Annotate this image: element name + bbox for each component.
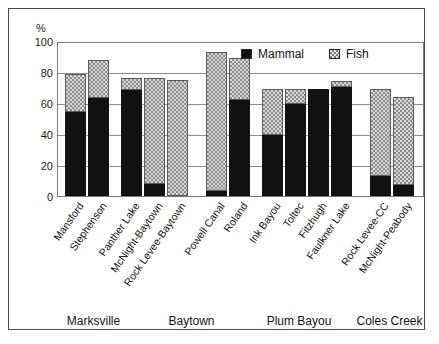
segment-fish bbox=[285, 89, 306, 104]
y-tick-60: 60 bbox=[15, 99, 53, 109]
segment-mammal bbox=[285, 104, 306, 196]
segment-mammal bbox=[370, 176, 391, 196]
group-label-plum-bayou: Plum Bayou bbox=[244, 314, 354, 328]
mammal-swatch-icon bbox=[241, 49, 252, 59]
segment-mammal bbox=[121, 90, 142, 196]
y-tick-100: 100 bbox=[15, 37, 53, 47]
legend-label-mammal: Mammal bbox=[258, 47, 304, 61]
bar-rock-levee-baytown[interactable] bbox=[167, 43, 188, 196]
group-label-coles-creek: Coles Creek bbox=[354, 314, 425, 328]
bar-mcnight-baytown[interactable] bbox=[144, 43, 165, 196]
legend-label-fish: Fish bbox=[346, 47, 369, 61]
group-label-baytown: Baytown bbox=[139, 314, 244, 328]
segment-mammal bbox=[206, 191, 227, 196]
bar-faulkner-lake[interactable] bbox=[331, 43, 352, 196]
segment-mammal bbox=[308, 89, 329, 196]
segment-fish bbox=[370, 89, 391, 176]
chart-frame: % 100 80 60 40 20 0 Mammal Fish bbox=[8, 8, 425, 330]
segment-fish bbox=[167, 80, 188, 196]
chart-page: % 100 80 60 40 20 0 Mammal Fish bbox=[0, 0, 439, 344]
segment-mammal bbox=[262, 135, 283, 196]
y-tick-80: 80 bbox=[15, 68, 53, 78]
bar-panther-lake[interactable] bbox=[121, 43, 142, 196]
segment-fish bbox=[331, 81, 352, 87]
segment-mammal bbox=[229, 100, 250, 196]
bar-stephenson[interactable] bbox=[88, 43, 109, 196]
fish-swatch-icon bbox=[329, 49, 340, 59]
bar-group-container bbox=[58, 43, 423, 196]
x-label-ink-bayou: Ink Bayou bbox=[246, 200, 283, 245]
segment-fish bbox=[206, 52, 227, 191]
bar-roland[interactable] bbox=[229, 43, 250, 196]
segment-mammal bbox=[65, 112, 86, 196]
y-tick-20: 20 bbox=[15, 161, 53, 171]
bar-mansford[interactable] bbox=[65, 43, 86, 196]
group-label-marksville: Marksville bbox=[48, 314, 139, 328]
segment-fish bbox=[144, 78, 165, 184]
bar-mcnight-peabody[interactable] bbox=[393, 43, 414, 196]
segment-mammal bbox=[331, 87, 352, 196]
segment-mammal bbox=[393, 185, 414, 196]
segment-mammal bbox=[88, 98, 109, 196]
bar-ink-bayou[interactable] bbox=[262, 43, 283, 196]
y-tick-0: 0 bbox=[15, 192, 53, 202]
segment-fish bbox=[262, 89, 283, 135]
y-axis: 100 80 60 40 20 0 bbox=[13, 42, 53, 197]
chart-legend: Mammal Fish bbox=[241, 47, 411, 63]
x-label-powell-canal: Powell Canal bbox=[182, 200, 227, 257]
plot-area bbox=[57, 42, 424, 197]
bar-powell-canal[interactable] bbox=[206, 43, 227, 196]
segment-fish bbox=[121, 78, 142, 90]
segment-fish bbox=[393, 97, 414, 186]
y-axis-unit-label: % bbox=[36, 22, 46, 34]
bar-toltec[interactable] bbox=[285, 43, 306, 196]
bar-rock-levee-cc[interactable] bbox=[370, 43, 391, 196]
segment-fish bbox=[229, 58, 250, 99]
segment-fish bbox=[65, 74, 86, 112]
bar-fitzhugh[interactable] bbox=[308, 43, 329, 196]
segment-fish bbox=[88, 60, 109, 98]
segment-mammal bbox=[144, 184, 165, 196]
y-tick-40: 40 bbox=[15, 130, 53, 140]
